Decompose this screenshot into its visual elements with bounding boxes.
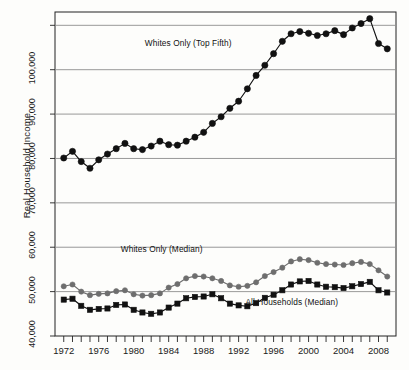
data-point: [139, 146, 145, 152]
data-point: [305, 30, 311, 36]
data-point: [271, 269, 276, 274]
data-point: [376, 268, 381, 273]
data-point: [297, 28, 303, 34]
data-point: [184, 296, 189, 301]
data-point: [192, 294, 197, 299]
data-point: [254, 280, 259, 285]
data-point: [210, 292, 215, 297]
data-point: [114, 289, 119, 294]
data-point: [122, 288, 127, 293]
data-point: [140, 293, 145, 298]
data-point: [79, 303, 84, 308]
y-tick-label: 70,000: [27, 175, 37, 227]
data-point: [96, 157, 102, 163]
data-point: [104, 151, 110, 157]
data-point: [219, 296, 224, 301]
data-point: [306, 258, 311, 263]
data-point: [157, 138, 163, 144]
data-point: [350, 261, 355, 266]
chart-plot-area: [0, 0, 409, 370]
data-point: [69, 148, 75, 154]
data-point: [227, 283, 232, 288]
data-point: [297, 279, 302, 284]
data-point: [61, 297, 66, 302]
data-point: [315, 282, 320, 287]
data-point: [350, 284, 355, 289]
data-point: [297, 257, 302, 262]
data-point: [87, 293, 92, 298]
data-point: [157, 291, 162, 296]
data-point: [367, 16, 373, 22]
data-point: [280, 288, 285, 293]
y-tick-label: 100,000: [27, 42, 37, 94]
series-annotation: Whites Only (Top Fifth): [145, 38, 232, 48]
data-point: [341, 262, 346, 267]
data-point: [174, 142, 180, 148]
data-point: [122, 302, 127, 307]
data-point: [315, 260, 320, 265]
data-point: [209, 120, 215, 126]
data-point: [323, 262, 328, 267]
data-point: [175, 301, 180, 306]
data-point: [70, 296, 75, 301]
data-point: [306, 278, 311, 283]
data-point: [245, 283, 250, 288]
series-annotation: All Households (Median): [245, 297, 338, 307]
data-point: [122, 140, 128, 146]
data-point: [270, 51, 276, 57]
data-point: [375, 40, 381, 46]
data-point: [288, 282, 293, 287]
data-point: [314, 32, 320, 38]
data-point: [201, 129, 207, 135]
data-point: [358, 20, 364, 26]
data-point: [192, 134, 198, 140]
data-point: [105, 306, 110, 311]
data-point: [201, 294, 206, 299]
data-point: [218, 114, 224, 120]
data-point: [288, 259, 293, 264]
data-point: [341, 285, 346, 290]
data-point: [114, 302, 119, 307]
y-tick-label: 60,000: [27, 219, 37, 271]
data-point: [184, 276, 189, 281]
data-point: [227, 105, 233, 111]
data-point: [236, 303, 241, 308]
data-point: [166, 305, 171, 310]
data-point: [87, 165, 93, 171]
data-point: [332, 28, 338, 34]
data-point: [236, 98, 242, 104]
data-point: [148, 143, 154, 149]
data-point: [367, 262, 372, 267]
data-point: [236, 284, 241, 289]
data-point: [70, 282, 75, 287]
data-point: [358, 259, 363, 264]
data-point: [253, 72, 259, 78]
data-point: [323, 284, 328, 289]
data-point: [244, 86, 250, 92]
data-point: [183, 138, 189, 144]
y-tick-label: 80,000: [27, 130, 37, 182]
data-point: [149, 293, 154, 298]
data-point: [227, 301, 232, 306]
data-point: [376, 288, 381, 293]
data-point: [140, 310, 145, 315]
data-point: [192, 273, 197, 278]
data-point: [384, 46, 390, 52]
data-point: [385, 274, 390, 279]
data-point: [61, 284, 66, 289]
data-point: [201, 274, 206, 279]
data-point: [131, 307, 136, 312]
y-tick-label: 50,000: [27, 264, 37, 316]
data-point: [157, 310, 162, 315]
data-point: [61, 155, 67, 161]
data-point: [340, 32, 346, 38]
data-point: [262, 273, 267, 278]
data-point: [175, 281, 180, 286]
data-point: [219, 278, 224, 283]
x-tick-label: 2008: [359, 345, 399, 356]
chart-figure: Real Household Income 40,00050,00060,000…: [0, 0, 409, 370]
data-point: [105, 291, 110, 296]
data-point: [166, 142, 172, 148]
data-point: [280, 265, 285, 270]
data-point: [367, 279, 372, 284]
